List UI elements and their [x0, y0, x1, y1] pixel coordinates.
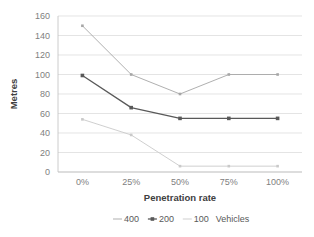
x-tick-label: 100% — [266, 177, 289, 187]
series-400 — [81, 24, 279, 95]
data-point-marker — [179, 165, 182, 168]
data-point-marker — [129, 106, 133, 110]
x-tick-label: 25% — [122, 177, 140, 187]
chart-canvas: 020406080100120140160 0%25%50%75%100% Pe… — [0, 0, 314, 237]
y-tick-label: 40 — [40, 128, 50, 138]
data-point-marker — [179, 93, 182, 96]
series-line-200 — [82, 75, 277, 118]
y-tick-label: 100 — [35, 70, 50, 80]
data-point-marker — [81, 74, 85, 78]
x-tick-label: 0% — [76, 177, 89, 187]
x-tick-label: 50% — [171, 177, 189, 187]
series-line-100 — [82, 119, 277, 166]
data-point-marker — [276, 117, 280, 121]
data-point-marker — [178, 117, 182, 121]
legend-suffix-label: Vehicles — [216, 214, 250, 224]
legend-marker-200 — [151, 217, 155, 221]
x-axis-tick-labels: 0%25%50%75%100% — [76, 177, 289, 187]
y-tick-label: 120 — [35, 50, 50, 60]
data-point-marker — [81, 118, 84, 121]
data-point-marker — [81, 24, 84, 27]
data-series-group — [81, 24, 280, 167]
data-point-marker — [276, 165, 279, 168]
line-chart: 020406080100120140160 0%25%50%75%100% Pe… — [0, 0, 314, 237]
series-line-400 — [82, 26, 277, 94]
data-point-marker — [130, 73, 133, 76]
y-axis-tick-labels: 020406080100120140160 — [35, 11, 50, 177]
y-tick-label: 160 — [35, 11, 50, 21]
y-tick-label: 140 — [35, 31, 50, 41]
legend-label-400: 400 — [124, 214, 139, 224]
data-point-marker — [130, 134, 133, 137]
chart-legend: 400200100Vehicles — [113, 214, 250, 224]
data-point-marker — [228, 165, 231, 168]
y-tick-label: 20 — [40, 148, 50, 158]
series-100 — [81, 118, 279, 167]
y-tick-label: 80 — [40, 89, 50, 99]
y-axis-title: Metres — [8, 79, 19, 110]
x-axis-title: Penetration rate — [144, 192, 216, 203]
data-point-marker — [276, 73, 279, 76]
legend-label-100: 100 — [194, 214, 209, 224]
legend-label-200: 200 — [159, 214, 174, 224]
data-point-marker — [227, 117, 231, 121]
x-tick-label: 75% — [220, 177, 238, 187]
data-point-marker — [228, 73, 231, 76]
y-tick-label: 60 — [40, 109, 50, 119]
y-tick-label: 0 — [45, 167, 50, 177]
